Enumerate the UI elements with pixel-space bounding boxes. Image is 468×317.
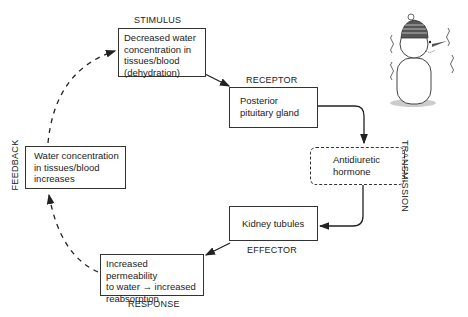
feedback-label: FEEDBACK [10, 130, 20, 200]
response-line2b: increased [155, 281, 196, 292]
arrow-icon: → [142, 281, 152, 292]
response-line2a: to water [106, 281, 140, 292]
effector-box: Kidney tubules [229, 206, 318, 241]
snowman-illustration [390, 14, 454, 107]
feedback-box: Water concentration in tissues/blood inc… [25, 146, 126, 189]
transmission-box: Antidiuretic hormone [310, 147, 405, 185]
arrow-feedback-stimulus [48, 51, 115, 143]
response-label: RESPONSE [128, 299, 180, 309]
arrow-stimulus-receptor [205, 74, 229, 86]
arrow-transmission-effector [320, 185, 363, 226]
response-line1: Increased permeability [106, 258, 198, 281]
transmission-label: TRANSMISSION [400, 140, 410, 210]
stimulus-label: STIMULUS [134, 15, 181, 25]
arrow-effector-response [206, 243, 230, 255]
arrow-receptor-transmission [318, 106, 364, 143]
response-box: Increased permeability to water → increa… [100, 254, 204, 296]
stimulus-box: Decreased water concentration in tissues… [118, 28, 206, 77]
receptor-box: Posterior pituitary gland [229, 87, 318, 128]
effector-label: EFFECTOR [247, 245, 297, 255]
arrow-response-feedback [49, 195, 98, 272]
response-line2: to water → increased [106, 281, 198, 293]
receptor-label: RECEPTOR [246, 75, 297, 85]
